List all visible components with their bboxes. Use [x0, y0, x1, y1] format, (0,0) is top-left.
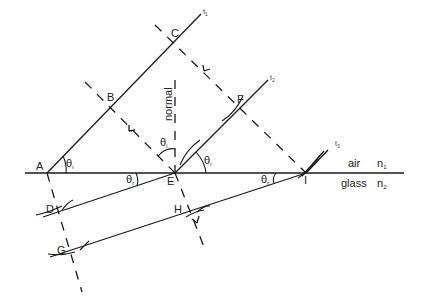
refracted-wavefront-D-E [43, 173, 175, 217]
arrow-icon-ray-E [192, 216, 199, 223]
refraction-diagram: A B C D E F G H I t1 t2 t3 normal θi θi … [0, 0, 422, 306]
arrow-icon-ray-C [203, 65, 210, 71]
label-normal: normal [162, 87, 174, 121]
label-point-D: D [46, 203, 54, 215]
label-theta-r-E: θr [126, 173, 134, 186]
label-n2: n2 [377, 177, 387, 190]
label-medium-air: air [348, 157, 361, 169]
label-t3: t3 [335, 140, 340, 149]
label-theta-i-E: θi [204, 154, 211, 167]
label-t1: t1 [203, 8, 208, 17]
label-point-A: A [36, 160, 44, 172]
angle-arc-I-refracted [273, 173, 276, 183]
angle-arc-normal [158, 149, 175, 156]
label-theta-i-A: θi [66, 157, 73, 170]
label-point-F: F [237, 93, 244, 105]
label-theta-i-normal: θi [160, 136, 167, 149]
wavefront-t2 [175, 80, 268, 173]
label-n1: n1 [377, 157, 387, 170]
label-theta-r-I: θr [261, 173, 269, 186]
label-point-H: H [174, 203, 182, 215]
arrow-icon-ray-B [129, 125, 135, 131]
wavelet-arc-G2 [80, 241, 89, 250]
label-point-B: B [107, 91, 114, 103]
label-point-G: G [57, 244, 66, 256]
ray-through-C [155, 25, 306, 173]
angle-arc-E-refracted [136, 173, 138, 186]
label-t2: t2 [270, 74, 275, 83]
label-point-C: C [171, 27, 179, 39]
label-point-I: I [304, 174, 307, 186]
label-point-E: E [167, 175, 174, 187]
label-medium-glass: glass [341, 177, 367, 189]
refracted-ray-A [47, 173, 82, 292]
